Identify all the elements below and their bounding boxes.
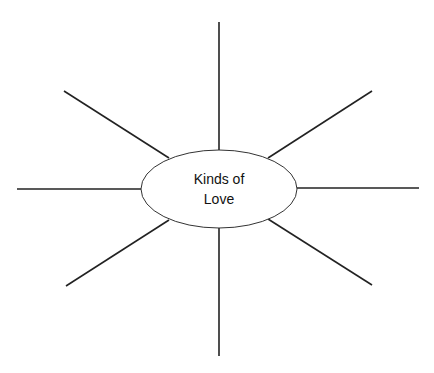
spoke-line-lower-right	[268, 219, 372, 285]
spoke-line-lower-left	[66, 220, 169, 286]
center-label-line-2: Love	[204, 189, 234, 209]
spoke-line-upper-left	[64, 91, 169, 158]
center-label-line-1: Kinds of	[194, 169, 245, 189]
spoke-line-upper-right	[268, 91, 372, 158]
center-label: Kinds of Love	[141, 150, 297, 228]
